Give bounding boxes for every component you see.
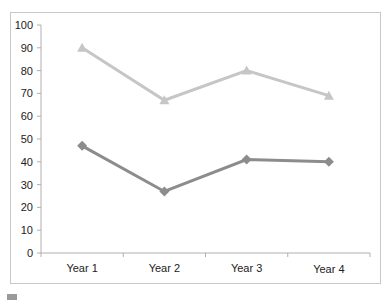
y-tick-label: 0 [27,247,33,259]
y-tick-label: 60 [21,110,33,122]
x-tick-label: Year 1 [66,262,97,274]
x-axis-ticks: Year 1Year 2Year 3Year 4 [41,253,370,275]
series-a [77,43,334,104]
y-tick-label: 30 [21,179,33,191]
series-line [82,146,329,192]
x-tick-label: Year 3 [231,262,262,274]
legend-swatch-cropped [7,294,17,300]
series-layer [77,43,334,197]
series-b [77,141,334,197]
y-tick-label: 70 [21,87,33,99]
y-tick-label: 20 [21,201,33,213]
y-tick-label: 100 [15,19,33,31]
triangle-marker-icon [77,43,87,52]
y-tick-label: 90 [21,42,33,54]
y-tick-label: 50 [21,133,33,145]
x-tick-label: Year 4 [313,263,344,275]
y-tick-label: 40 [21,156,33,168]
x-tick-label: Year 2 [149,262,180,274]
diamond-marker-icon [242,155,252,165]
series-line [82,48,329,100]
y-axis-ticks: 0102030405060708090100 [15,19,41,259]
diamond-marker-icon [324,157,334,167]
y-tick-label: 80 [21,65,33,77]
y-tick-label: 10 [21,224,33,236]
